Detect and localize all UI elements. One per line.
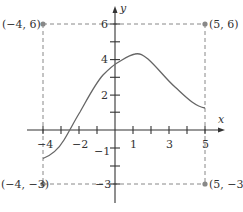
y-tick-label: −1 — [94, 145, 110, 158]
corner-label-tl: (−4, 6) — [2, 18, 41, 31]
y-tick-label: 6 — [101, 18, 108, 31]
dashed-bounding-box — [43, 24, 205, 184]
point-tl — [40, 21, 45, 26]
function-graph: y x −4 −2 1 3 5 6 4 2 −1 −3 (−4, 6) (5, … — [0, 0, 243, 212]
x-tick-label: −2 — [72, 138, 88, 151]
y-axis-arrow-icon — [113, 6, 118, 13]
x-tick-label: −4 — [37, 138, 53, 151]
corner-label-br: (5, −3) — [209, 178, 243, 191]
point-tr — [202, 21, 207, 26]
y-axis — [110, 6, 120, 203]
y-tick-label: 4 — [101, 53, 108, 66]
x-axis-arrow-icon — [218, 128, 225, 133]
corner-label-tr: (5, 6) — [209, 18, 239, 31]
function-curve — [43, 54, 205, 159]
y-tick-label: −3 — [95, 178, 111, 191]
x-tick-label: 5 — [202, 138, 209, 151]
x-tick-label: 3 — [166, 138, 173, 151]
x-axis — [27, 126, 225, 134]
y-tick-label: 2 — [101, 89, 108, 102]
point-br — [202, 181, 207, 186]
x-axis-label: x — [218, 113, 225, 126]
x-tick-label: 1 — [130, 138, 137, 151]
corner-label-bl: (−4, −3) — [1, 178, 49, 191]
y-axis-label: y — [119, 2, 127, 15]
